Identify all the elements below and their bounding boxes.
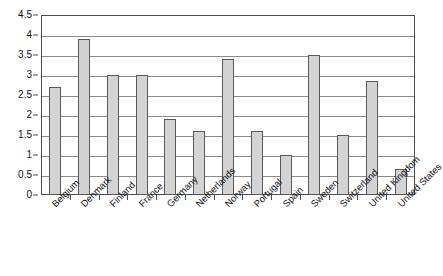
bar [164,119,176,195]
y-tick-mark [33,95,38,96]
y-tick-label: 0 [26,190,32,200]
y-tick-mark [33,115,38,116]
bar [78,39,90,195]
y-tick-label: 2.5 [18,90,32,100]
y-tick-label: 0.5 [18,170,32,180]
y-tick-label: 1.5 [18,130,32,140]
bar [136,75,148,195]
x-axis: BelgiumDenmarkFinlandFranceGermanyNether… [41,200,415,276]
y-tick-mark [33,15,38,16]
y-tick-mark [33,175,38,176]
y-tick-mark [33,55,38,56]
y-tick-mark [33,195,38,196]
y-tick-label: 2 [26,110,32,120]
y-tick-label: 3.5 [18,50,32,60]
y-tick-mark [33,35,38,36]
bar [280,155,292,195]
bar [49,87,61,195]
y-tick-label: 4 [26,30,32,40]
y-tick-mark [33,135,38,136]
y-tick-label: 4.5 [18,10,32,20]
bar [308,55,320,195]
y-tick-label: 1 [26,150,32,160]
y-tick-label: 3 [26,70,32,80]
y-tick-mark [33,75,38,76]
y-axis: 00.511.522.533.544.5 [0,15,37,195]
y-tick-mark [33,155,38,156]
